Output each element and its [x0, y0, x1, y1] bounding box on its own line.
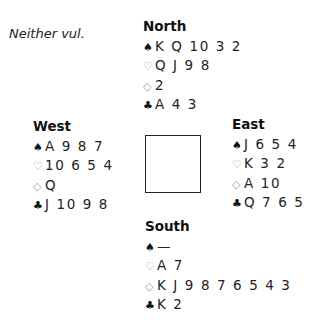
west-hand: West ♠A 9 8 7 ♡10 6 5 4 ◇Q ♣J 10 9 8: [33, 117, 114, 215]
heart-icon: ♡: [232, 155, 244, 175]
north-hand: North ♠K Q 10 3 2 ♡Q J 9 8 ◇2 ♣A 4 3: [143, 17, 242, 115]
cards: A 10: [244, 175, 281, 191]
spade-icon: ♠: [33, 138, 45, 158]
cards: Q J 9 8: [155, 57, 211, 73]
clubs-holding: ♣J 10 9 8: [33, 195, 114, 215]
hand-name: East: [232, 115, 304, 135]
heart-icon: ♡: [143, 57, 155, 77]
spades-holding: ♠—: [145, 237, 292, 257]
table-diagram-box: [145, 135, 201, 193]
cards: Q 7 6 5: [244, 194, 304, 210]
hearts-holding: ♡10 6 5 4: [33, 156, 114, 176]
vulnerability-label: Neither vul.: [9, 26, 85, 41]
hand-name: South: [145, 217, 292, 237]
hand-name: North: [143, 17, 242, 37]
diamond-icon: ◇: [143, 77, 155, 97]
hearts-holding: ♡K 3 2: [232, 154, 304, 174]
cards: 2: [155, 77, 165, 93]
cards: —: [157, 238, 172, 254]
east-hand: East ♠J 6 5 4 ♡K 3 2 ◇A 10 ♣Q 7 6 5: [232, 115, 304, 213]
heart-icon: ♡: [33, 157, 45, 177]
spades-holding: ♠A 9 8 7: [33, 137, 114, 157]
clubs-holding: ♣Q 7 6 5: [232, 193, 304, 213]
diamonds-holding: ◇Q: [33, 176, 114, 196]
clubs-holding: ♣A 4 3: [143, 95, 242, 115]
cards: A 7: [157, 257, 184, 273]
hand-name: West: [33, 117, 114, 137]
club-icon: ♣: [143, 96, 155, 116]
cards: A 4 3: [155, 96, 198, 112]
cards: J 6 5 4: [244, 136, 298, 152]
spade-icon: ♠: [232, 136, 244, 156]
spade-icon: ♠: [143, 38, 155, 58]
diamonds-holding: ◇A 10: [232, 174, 304, 194]
clubs-holding: ♣K 2: [145, 295, 292, 315]
cards: 10 6 5 4: [45, 157, 114, 173]
cards: J 10 9 8: [45, 196, 109, 212]
diamonds-holding: ◇2: [143, 76, 242, 96]
diamond-icon: ◇: [33, 177, 45, 197]
cards: K Q 10 3 2: [155, 38, 242, 54]
spades-holding: ♠J 6 5 4: [232, 135, 304, 155]
club-icon: ♣: [232, 194, 244, 214]
spade-icon: ♠: [145, 238, 157, 258]
cards: A 9 8 7: [45, 138, 104, 154]
spades-holding: ♠K Q 10 3 2: [143, 37, 242, 57]
diamond-icon: ◇: [232, 175, 244, 195]
cards: K J 9 8 7 6 5 4 3: [157, 277, 292, 293]
diamond-icon: ◇: [145, 277, 157, 297]
south-hand: South ♠— ♡A 7 ◇K J 9 8 7 6 5 4 3 ♣K 2: [145, 217, 292, 315]
club-icon: ♣: [145, 296, 157, 316]
cards: K 3 2: [244, 155, 287, 171]
heart-icon: ♡: [145, 257, 157, 277]
hearts-holding: ♡Q J 9 8: [143, 56, 242, 76]
club-icon: ♣: [33, 196, 45, 216]
diamonds-holding: ◇K J 9 8 7 6 5 4 3: [145, 276, 292, 296]
hearts-holding: ♡A 7: [145, 256, 292, 276]
cards: Q: [45, 177, 57, 193]
cards: K 2: [157, 296, 184, 312]
